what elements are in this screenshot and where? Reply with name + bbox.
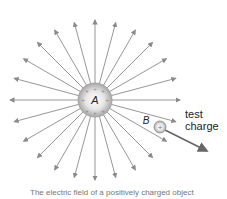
test-charge-force-arrow <box>165 130 207 151</box>
plus-sign: + <box>93 110 97 116</box>
field-line <box>55 30 87 85</box>
plus-sign: + <box>81 97 85 103</box>
field-line <box>99 116 115 177</box>
field-line <box>104 30 136 85</box>
plus-sign: + <box>93 86 97 92</box>
field-line <box>24 59 81 92</box>
field-line <box>74 23 90 84</box>
field-line <box>55 115 87 170</box>
field-line <box>37 42 83 88</box>
field-line <box>99 23 115 84</box>
field-line <box>74 116 90 177</box>
test-charge-label: test charge <box>185 108 219 132</box>
test-label-line1: test <box>185 108 219 120</box>
field-line <box>24 109 81 142</box>
charge-b-sign: + <box>158 123 163 132</box>
charge-a-label: A <box>90 94 98 106</box>
plus-sign: + <box>85 108 89 114</box>
plus-sign: + <box>105 97 109 103</box>
field-line <box>14 104 78 121</box>
figure-caption: The electric field of a positively charg… <box>30 188 194 197</box>
plus-sign: + <box>101 88 105 94</box>
field-line <box>110 59 167 92</box>
field-line <box>14 78 78 95</box>
charge-b-label: B <box>143 115 150 126</box>
test-label-line2: charge <box>185 120 219 132</box>
field-diagram: ++++++++ A + B <box>0 0 227 199</box>
plus-sign: + <box>101 108 105 114</box>
field-line <box>104 115 136 170</box>
field-line <box>111 78 175 95</box>
field-line <box>37 112 83 158</box>
plus-sign: + <box>85 88 89 94</box>
field-line <box>107 42 153 88</box>
